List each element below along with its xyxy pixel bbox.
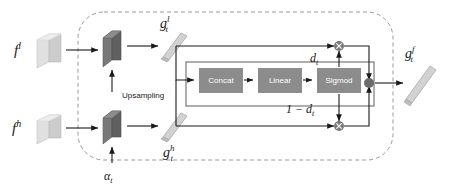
path-glow-to-concat: [176, 46, 194, 80]
label-sigmoid: Sigmod: [325, 76, 352, 85]
input-low-level-feature-slab: [37, 34, 61, 68]
multiply-one-minus-dt-node: [334, 121, 344, 131]
sum-node: [364, 78, 374, 88]
g-low-feature-bar: [161, 33, 187, 62]
label-upsampling: Upsampling: [122, 91, 164, 100]
label-one-minus-d-t-base: 1 − d: [286, 102, 313, 116]
label-d-t-sub: t: [316, 58, 319, 67]
label-f-high-sup: h: [16, 118, 21, 129]
label-g-low-sup: l: [167, 14, 170, 24]
label-g-high-sup: h: [170, 143, 175, 153]
input-high-level-feature-slab: [37, 115, 61, 144]
figure-canvas: fl fh αt Upsampling glt ght gft Concat L…: [0, 0, 450, 187]
upsampled-low-feature-slab: [103, 31, 121, 67]
label-one-minus-d-t: 1 − dt: [286, 102, 315, 118]
label-g-fused-sup: f: [412, 44, 416, 54]
label-f-low: fl: [14, 40, 21, 58]
g-fused-feature-bar: [404, 66, 436, 106]
g-high-feature-bar: [161, 113, 187, 142]
label-g-low-sub: t: [166, 24, 169, 34]
label-g-low: glt: [160, 14, 170, 34]
label-g-high-base: g: [163, 145, 170, 160]
label-f-high: fh: [12, 118, 21, 136]
label-g-fused-sub: t: [411, 54, 414, 64]
label-alpha-t: αt: [104, 169, 113, 185]
label-one-minus-d-t-sub: t: [312, 109, 315, 118]
label-d-t: dt: [310, 51, 319, 67]
label-alpha-sub: t: [110, 176, 113, 185]
label-g-fused: gft: [405, 44, 416, 64]
label-f-low-sup: l: [18, 40, 21, 51]
label-concat: Concat: [208, 76, 234, 85]
label-linear: Linear: [269, 76, 292, 85]
label-g-high-sub: t: [171, 153, 174, 163]
modulated-high-feature-slab: [103, 111, 121, 144]
multiply-dt-node: [334, 41, 344, 51]
